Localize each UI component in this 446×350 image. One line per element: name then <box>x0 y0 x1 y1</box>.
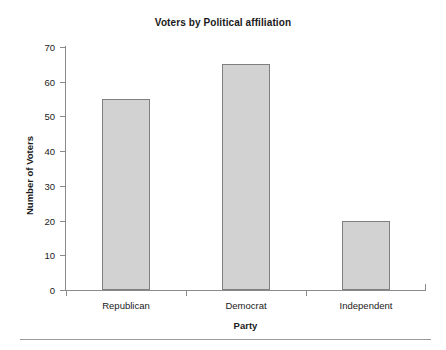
y-tick-60 <box>60 82 66 83</box>
x-category-label-independent: Independent <box>306 301 426 311</box>
bar-democrat <box>222 64 270 290</box>
y-tick-label-10: 10 <box>0 251 55 261</box>
x-category-label-republican: Republican <box>66 301 186 311</box>
y-tick-label-60: 60 <box>0 78 55 88</box>
chart-title: Voters by Political affiliation <box>0 17 446 28</box>
x-axis-title: Party <box>66 320 425 331</box>
y-tick-10 <box>60 255 66 256</box>
y-tick-label-50: 50 <box>0 112 55 122</box>
bar-chart-figure: Voters by Political affiliation 0 10 20 … <box>0 0 446 350</box>
y-tick-70 <box>60 47 66 48</box>
x-tick-boundary-2 <box>306 290 307 296</box>
x-tick-boundary-1 <box>186 290 187 296</box>
footer-divider <box>20 339 431 340</box>
y-tick-label-20: 20 <box>0 217 55 227</box>
y-tick-50 <box>60 116 66 117</box>
y-axis-title: Number of Voters <box>24 136 35 215</box>
x-axis-line <box>65 290 426 291</box>
y-tick-30 <box>60 186 66 187</box>
x-tick-boundary-0 <box>66 290 67 296</box>
bar-independent <box>342 221 390 290</box>
x-axis-end-cap <box>425 284 426 291</box>
y-tick-label-0: 0 <box>0 286 55 296</box>
y-tick-label-70: 70 <box>0 43 55 53</box>
y-tick-40 <box>60 151 66 152</box>
y-tick-20 <box>60 221 66 222</box>
bar-republican <box>102 99 150 290</box>
x-category-label-democrat: Democrat <box>186 301 306 311</box>
